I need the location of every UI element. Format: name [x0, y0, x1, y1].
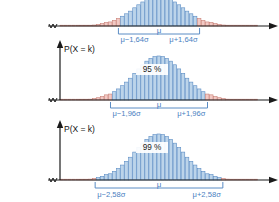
bar: [133, 152, 137, 180]
bar: [197, 18, 201, 26]
bar: [108, 94, 112, 100]
x-axis-arrow: [269, 177, 278, 183]
bar: [193, 16, 197, 26]
percent-label: 95 %: [143, 65, 162, 74]
bar: [193, 165, 197, 180]
bar: [161, 57, 165, 100]
x-axis-arrow: [269, 97, 278, 103]
distribution-chart-svg: Xμμ−1,64σμ+1,64σXP(X = k)μμ−1,96σμ+1,96σ…: [0, 0, 279, 202]
percent-label: 99 %: [143, 143, 162, 152]
lower-bound-label: μ−1,96σ: [112, 109, 141, 118]
confidence-interval-figure: Xμμ−1,64σμ+1,64σXP(X = k)μμ−1,96σμ+1,96σ…: [0, 0, 279, 202]
bar: [169, 139, 173, 180]
bar: [201, 92, 205, 100]
bar: [113, 20, 117, 26]
y-axis-label: P(X = k): [64, 124, 95, 134]
bar: [104, 175, 108, 180]
bar: [137, 5, 141, 26]
bar: [197, 89, 201, 100]
clipped-bars: [60, 0, 258, 26]
bar: [173, 2, 177, 26]
upper-bound-label: μ+1,64σ: [169, 35, 198, 44]
mu-label: μ: [157, 26, 162, 35]
bar: [153, 57, 157, 100]
bar: [189, 82, 193, 100]
bar: [169, 0, 173, 26]
bar: [201, 20, 205, 26]
bar: [210, 175, 214, 180]
bar: [177, 5, 181, 26]
bar: [205, 94, 209, 100]
bar: [141, 2, 145, 26]
bar: [117, 89, 121, 100]
bar: [153, 0, 157, 26]
bar: [185, 11, 189, 26]
bar: [157, 134, 161, 180]
bar: [125, 161, 129, 180]
panel-90: Xμμ−1,64σμ+1,64σ: [48, 0, 279, 44]
bar: [189, 161, 193, 180]
bar: [173, 143, 177, 180]
upper-bound-label: μ+1,96σ: [177, 109, 206, 118]
x-axis-arrow: [269, 23, 278, 29]
mu-label: μ: [157, 100, 162, 109]
bar: [165, 0, 169, 26]
y-axis-arrow: [57, 40, 63, 48]
mu-label: μ: [157, 180, 162, 189]
bar: [193, 86, 197, 100]
bar: [201, 171, 205, 180]
bar: [125, 14, 129, 26]
bar: [177, 69, 181, 100]
bar: [197, 168, 201, 180]
bar: [169, 61, 173, 100]
bar: [108, 22, 112, 26]
y-axis-arrow: [57, 120, 63, 128]
bar: [108, 174, 112, 180]
upper-bound-label: μ+2,58σ: [193, 190, 222, 199]
bar: [104, 95, 108, 100]
bar: [149, 0, 153, 26]
bar: [181, 152, 185, 180]
bar: [177, 148, 181, 181]
bar: [145, 0, 149, 26]
bar: [181, 8, 185, 26]
bar: [161, 135, 165, 180]
bar: [121, 86, 125, 100]
bar: [161, 0, 165, 26]
bar: [210, 95, 214, 100]
bar: [129, 78, 133, 100]
bar: [185, 78, 189, 100]
bar: [129, 11, 133, 26]
bar: [157, 56, 161, 100]
bar: [181, 73, 185, 100]
bar: [121, 16, 125, 26]
bar: [205, 22, 209, 26]
bar: [113, 171, 117, 180]
bar: [121, 165, 125, 180]
lower-bound-label: μ−2,58σ: [97, 190, 126, 199]
bar: [189, 14, 193, 26]
bar: [133, 73, 137, 100]
bar: [173, 65, 177, 100]
bar: [117, 18, 121, 26]
bar: [205, 174, 209, 180]
y-axis-label: P(X = k): [64, 44, 95, 54]
bar: [117, 168, 121, 180]
lower-bound-label: μ−1,64σ: [120, 35, 149, 44]
bar: [133, 8, 137, 26]
panel-95: XP(X = k)μμ−1,96σμ+1,96σ95 %: [48, 40, 279, 118]
bar: [153, 135, 157, 180]
panel-99: XP(X = k)μμ−2,58σμ+2,58σ99 %: [48, 120, 279, 199]
bar: [113, 92, 117, 100]
bar: [129, 157, 133, 180]
bar: [125, 82, 129, 100]
bar: [185, 157, 189, 180]
bar: [157, 0, 161, 26]
